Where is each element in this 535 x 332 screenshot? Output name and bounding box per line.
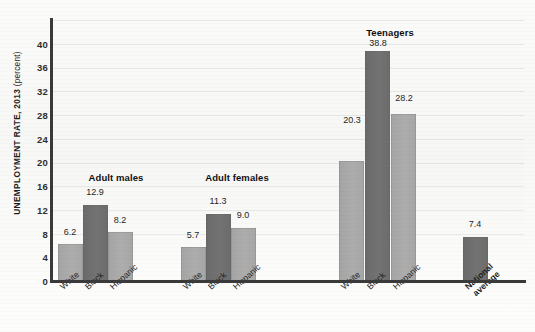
bar-value-males-black: 12.9 xyxy=(81,187,109,197)
gridline-8 xyxy=(52,210,524,211)
gridline-36 xyxy=(52,44,524,45)
y-axis-line xyxy=(50,18,53,283)
group-title-adult-females: Adult females xyxy=(172,172,302,183)
bar-value-males-white: 6.2 xyxy=(56,227,84,237)
bar-males-black xyxy=(83,205,108,281)
bar-value-teens-black: 38.8 xyxy=(362,38,394,48)
y-tick-4: 4 xyxy=(4,252,48,263)
y-tick-12: 12 xyxy=(4,204,48,215)
group-title-adult-males: Adult males xyxy=(56,172,176,183)
gridline-12 xyxy=(52,186,524,187)
gridline-28 xyxy=(52,91,524,92)
bar-value-males-hispanic: 8.2 xyxy=(106,215,134,225)
y-tick-24: 24 xyxy=(4,133,48,144)
y-tick-28: 28 xyxy=(4,109,48,120)
y-tick-16: 16 xyxy=(4,181,48,192)
bar-value-females-white: 5.7 xyxy=(179,230,207,240)
bar-value-national-average: 7.4 xyxy=(461,219,489,229)
gridline-32 xyxy=(52,68,524,69)
bar-value-females-black: 11.3 xyxy=(204,196,232,206)
bar-teens-white xyxy=(339,161,364,281)
gridline-24 xyxy=(52,115,524,116)
y-tick-32: 32 xyxy=(4,86,48,97)
y-axis-ticks: 0 4 8 12 16 20 24 28 32 36 40 xyxy=(0,0,48,332)
y-tick-36: 36 xyxy=(4,62,48,73)
bar-value-teens-hispanic: 28.2 xyxy=(388,93,420,103)
y-tick-8: 8 xyxy=(4,228,48,239)
x-axis-line xyxy=(50,280,526,283)
gridline-40 xyxy=(52,20,524,21)
bar-value-teens-white: 20.3 xyxy=(336,115,368,125)
bar-teens-black xyxy=(365,51,390,281)
unemployment-bar-chart: UNEMPLOYMENT RATE, 2013 (percent) 0 4 8 … xyxy=(0,0,535,332)
gridline-16 xyxy=(52,163,524,164)
y-tick-0: 0 xyxy=(4,276,48,287)
y-tick-20: 20 xyxy=(4,157,48,168)
bar-value-females-hispanic: 9.0 xyxy=(229,210,257,220)
group-title-teenagers: Teenagers xyxy=(330,27,450,38)
gridline-20 xyxy=(52,139,524,140)
bar-teens-hispanic xyxy=(391,114,416,281)
y-tick-40: 40 xyxy=(4,38,48,49)
